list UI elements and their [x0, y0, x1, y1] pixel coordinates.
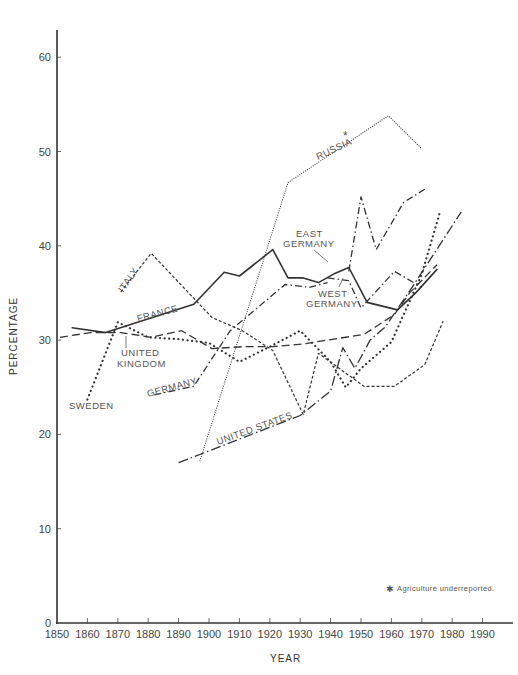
x-tick-label: 1930 — [288, 628, 312, 640]
label-russia-asterisk: * — [343, 129, 348, 143]
y-axis-title: PERCENTAGE — [8, 297, 19, 375]
x-tick-label: 1860 — [75, 628, 99, 640]
x-tick-label: 1920 — [258, 628, 282, 640]
east-germany-pointer — [314, 250, 328, 262]
series-line-united-kingdom — [60, 265, 437, 349]
y-tick-label: 10 — [39, 523, 51, 535]
x-tick-label: 1910 — [227, 628, 251, 640]
series-line-russia — [200, 116, 422, 461]
x-tick-label: 1950 — [349, 628, 373, 640]
label-uk-1: UNITED — [121, 347, 159, 358]
y-tick-label: 60 — [39, 51, 51, 63]
label-germany: GERMANY — [146, 375, 199, 399]
x-tick-label: 1870 — [106, 628, 130, 640]
label-italy: ITALY — [116, 265, 141, 294]
x-tick-label: 1850 — [45, 628, 69, 640]
x-tick-label: 1970 — [410, 628, 434, 640]
x-tick-label: 1990 — [470, 628, 494, 640]
label-uk-2: KINGDOM — [117, 358, 166, 369]
y-tick-label: 20 — [39, 428, 51, 440]
y-tick-label: 50 — [39, 146, 51, 158]
y-tick-label: 30 — [39, 334, 51, 346]
x-tick-label: 1960 — [379, 628, 403, 640]
label-east-germany-2: GERMANY — [283, 238, 335, 249]
line-chart: 0102030405060185018601870188018901900191… — [0, 0, 518, 675]
label-united-states: UNITED STATES — [215, 409, 294, 447]
x-tick-label: 1900 — [197, 628, 221, 640]
series-line-germany — [154, 283, 327, 395]
footnote-mark: ✱ — [386, 584, 394, 594]
x-tick-label: 1980 — [440, 628, 464, 640]
label-sweden: SWEDEN — [69, 400, 114, 411]
x-tick-label: 1940 — [318, 628, 342, 640]
series-line-france — [72, 250, 437, 333]
y-tick-label: 40 — [39, 240, 51, 252]
series-line-east-germany — [349, 189, 425, 271]
x-tick-label: 1880 — [136, 628, 160, 640]
axes: 0102030405060185018601870188018901900191… — [39, 30, 513, 640]
label-west-germany-2: GERMANY — [306, 298, 358, 309]
footnote-text: Agriculture underreported. — [397, 584, 495, 593]
series-line-sweden — [87, 212, 440, 400]
x-tick-label: 1890 — [166, 628, 190, 640]
west-germany-pointer — [339, 278, 343, 287]
series-line-united-states — [179, 212, 462, 463]
label-france: FRANCE — [136, 302, 179, 324]
x-axis-title: YEAR — [270, 653, 301, 664]
